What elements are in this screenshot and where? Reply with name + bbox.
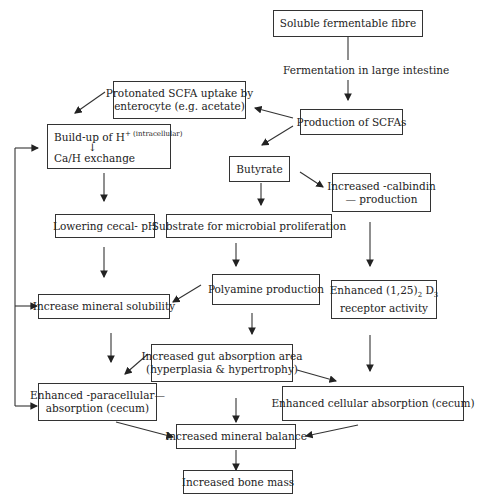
- node-label: Build-up of H+ (intracellular): [54, 128, 182, 144]
- node-label: Ca/H exchange: [54, 152, 135, 165]
- node-polyamine: Polyamine production: [212, 274, 320, 305]
- node-paracellular: Enhanced -paracellular— absorption (cecu…: [38, 383, 157, 421]
- node-label: Enhanced cellular absorption (cecum): [271, 397, 474, 410]
- node-label: Protonated SCFA uptake by: [106, 87, 254, 100]
- node-gut-absorption-area: Increased gut absorption area (hyperplas…: [151, 344, 293, 382]
- node-label: Lowering cecal- pH: [53, 220, 157, 233]
- node-label: Increase mineral solubility: [33, 300, 175, 313]
- node-substrate: Substrate for microbial proliferation: [166, 214, 332, 238]
- node-calbindin: Increased -calbindin — production: [332, 173, 431, 212]
- node-label: absorption (cecum): [46, 402, 149, 415]
- node-protonated-scfa: Protonated SCFA uptake by enterocyte (e.…: [113, 81, 246, 119]
- node-label: Production of SCFAs: [297, 116, 407, 129]
- node-label: Butyrate: [236, 163, 282, 176]
- node-lowering-ph: Lowering cecal- pH: [55, 214, 155, 238]
- node-cellular-absorption: Enhanced cellular absorption (cecum): [282, 386, 464, 421]
- node-bone-mass: Increased bone mass: [183, 470, 293, 494]
- node-label: Increased -calbindin: [327, 180, 436, 193]
- node-label: Increased bone mass: [182, 476, 294, 489]
- node-label: Increased gut absorption area: [141, 350, 302, 363]
- node-mineral-balance: Increased mineral balance: [176, 424, 296, 449]
- node-label: Soluble fermentable fibre: [280, 17, 416, 30]
- node-mineral-solubility: Increase mineral solubility: [38, 294, 170, 319]
- label-fermentation: Fermentation in large intestine: [283, 64, 449, 76]
- node-label: receptor activity: [340, 302, 428, 315]
- node-production-scfas: Production of SCFAs: [300, 109, 403, 135]
- node-label: (hyperplasia & hypertrophy): [146, 363, 298, 376]
- node-label: enterocyte (e.g. acetate): [114, 100, 245, 113]
- node-buildup-h: Build-up of H+ (intracellular) ↓ Ca/H ex…: [47, 124, 171, 169]
- node-label: Enhanced (1,25)2 D3: [330, 284, 439, 302]
- node-d3-receptor: Enhanced (1,25)2 D3 receptor activity: [331, 280, 437, 319]
- node-label: Enhanced -paracellular—: [30, 389, 165, 402]
- node-label: Increased mineral balance: [165, 430, 307, 443]
- node-label: Polyamine production: [208, 283, 324, 296]
- node-butyrate: Butyrate: [229, 156, 290, 182]
- down-arrow-icon: ↓: [54, 143, 97, 152]
- node-label: Substrate for microbial proliferation: [152, 220, 346, 233]
- node-soluble-fibre: Soluble fermentable fibre: [273, 10, 423, 37]
- node-label: — production: [346, 193, 418, 206]
